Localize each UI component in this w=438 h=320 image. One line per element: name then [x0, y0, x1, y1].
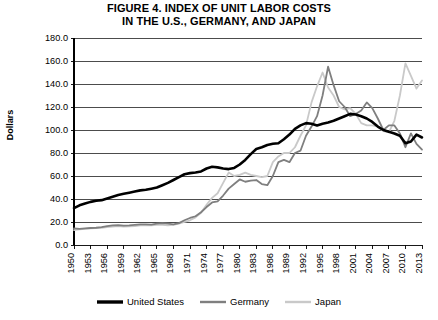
series-line-germany [74, 67, 422, 229]
x-tick-label: 1968 [165, 253, 175, 273]
legend-label-united-states: United States [127, 296, 184, 307]
legend-item-united-states: United States [97, 296, 184, 307]
x-tick-label: 1992 [298, 253, 308, 273]
x-tick-label: 1983 [248, 253, 258, 273]
legend-label-germany: Germany [230, 296, 269, 307]
x-tick-label: 1989 [281, 253, 291, 273]
x-tick-label: 1995 [315, 253, 325, 273]
figure-container: FIGURE 4. INDEX OF UNIT LABOR COSTS IN T… [0, 0, 438, 320]
y-tick-label: 80.0 [50, 148, 68, 158]
x-tick-label: 2004 [364, 253, 374, 273]
y-tick-label: 120.0 [45, 102, 68, 112]
x-tick-label: 1950 [66, 253, 76, 273]
x-tick-label: 1953 [83, 253, 93, 273]
y-tick-label: 40.0 [50, 194, 68, 204]
y-tick-label: 160.0 [45, 56, 68, 66]
y-tick-label: 100.0 [45, 125, 68, 135]
x-tick-label: 2001 [348, 253, 358, 273]
legend-item-germany: Germany [200, 296, 269, 307]
x-tick-label: 1980 [232, 253, 242, 273]
x-tick-label: 2007 [381, 253, 391, 273]
x-tick-label: 1974 [199, 253, 209, 273]
legend-swatch-united-states [97, 297, 123, 307]
legend-swatch-japan [285, 297, 311, 307]
x-tick-label: 1962 [132, 253, 142, 273]
y-tick-label: 140.0 [45, 79, 68, 89]
series-line-japan [74, 63, 422, 230]
legend-item-japan: Japan [285, 296, 341, 307]
x-tick-label: 2010 [397, 253, 407, 273]
y-tick-label: 180.0 [45, 33, 68, 43]
chart-plot: 0.020.040.060.080.0100.0120.0140.0160.01… [0, 0, 438, 320]
y-tick-label: 20.0 [50, 217, 68, 227]
x-tick-label: 1956 [99, 253, 109, 273]
legend-swatch-germany [200, 297, 226, 307]
y-tick-label: 60.0 [50, 171, 68, 181]
x-tick-label: 1971 [182, 253, 192, 273]
x-tick-label: 1959 [116, 253, 126, 273]
series-line-united-states [74, 114, 422, 208]
x-tick-label: 1998 [331, 253, 341, 273]
x-tick-label: 1965 [149, 253, 159, 273]
x-tick-label: 1977 [215, 253, 225, 273]
chart-legend: United States Germany Japan [0, 296, 438, 307]
legend-label-japan: Japan [315, 296, 341, 307]
y-tick-label: 0.0 [55, 240, 68, 250]
x-tick-label: 2013 [414, 253, 424, 273]
x-tick-label: 1986 [265, 253, 275, 273]
